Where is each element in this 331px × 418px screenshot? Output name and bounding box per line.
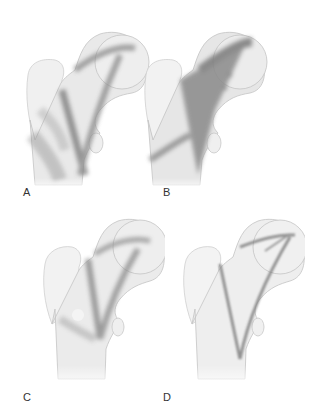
panel-label-c: C [23,391,31,403]
panel-label-d: D [163,391,171,403]
panel-b: B [140,0,305,209]
panel-d: D [140,209,305,418]
femur-illustration-d [140,209,305,418]
panel-label-b: B [163,186,170,198]
femur-illustration-b [140,0,305,209]
panel-label-a: A [23,186,30,198]
